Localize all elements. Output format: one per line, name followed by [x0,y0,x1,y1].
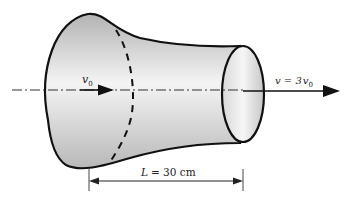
outlet-end-face [222,46,264,142]
length-arrow-right [233,178,243,185]
outlet-arrow-head [323,85,340,97]
outlet-velocity-label: v = 3v0 [275,75,313,89]
tube-diagram: v0 v = 3v0 L= 30 cm [0,0,352,201]
tube-body [45,14,240,168]
length-label: L= 30 cm [140,166,196,178]
length-arrow-left [89,178,99,185]
